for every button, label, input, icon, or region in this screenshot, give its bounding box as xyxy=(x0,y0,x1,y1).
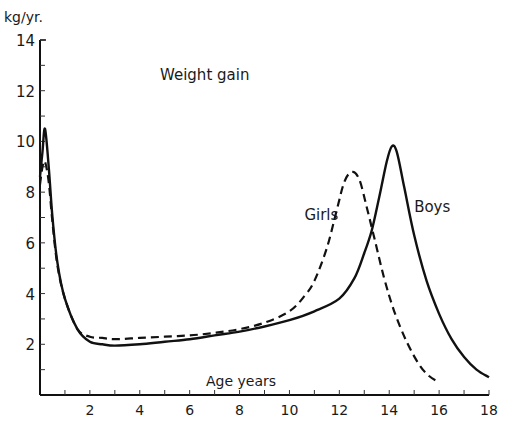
series-boys-line xyxy=(40,129,489,378)
y-tick-label: 8 xyxy=(25,184,35,202)
series-label-boys: Boys xyxy=(414,198,450,216)
y-tick-label: 2 xyxy=(25,336,35,354)
y-tick-label: 10 xyxy=(16,133,35,151)
y-tick-label: 4 xyxy=(25,286,35,304)
chart-canvas: 246810121424681012141618 BoysGirls kg/yr… xyxy=(0,0,515,433)
y-axis-label: kg/yr. xyxy=(4,9,43,25)
series-label-girls: Girls xyxy=(304,206,338,224)
series-layer: BoysGirls xyxy=(40,129,489,383)
x-tick-label: 4 xyxy=(135,402,144,418)
x-tick-label: 8 xyxy=(235,402,244,418)
x-tick-label: 2 xyxy=(85,402,94,418)
chart-title: Weight gain xyxy=(160,66,249,84)
x-tick-label: 14 xyxy=(380,402,398,418)
x-axis-label: Age years xyxy=(206,373,276,389)
y-tick-label: 12 xyxy=(16,83,35,101)
y-tick-label: 14 xyxy=(16,32,35,50)
weight-gain-chart: 246810121424681012141618 BoysGirls kg/yr… xyxy=(0,0,515,433)
x-tick-label: 18 xyxy=(480,402,498,418)
x-tick-label: 10 xyxy=(281,402,299,418)
x-tick-label: 16 xyxy=(430,402,448,418)
y-tick-label: 6 xyxy=(25,235,35,253)
axes: 246810121424681012141618 xyxy=(16,32,498,418)
x-tick-label: 12 xyxy=(330,402,348,418)
x-tick-label: 6 xyxy=(185,402,194,418)
